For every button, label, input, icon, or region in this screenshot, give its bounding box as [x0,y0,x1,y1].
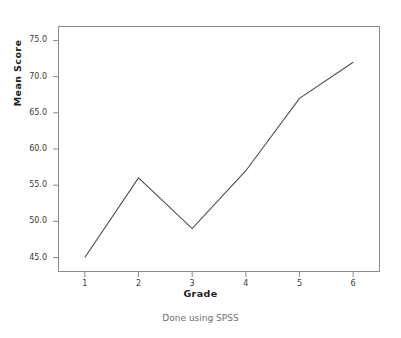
x-tick-label: 3 [180,279,204,288]
y-tick-label: 65.0 [7,108,47,117]
x-axis-tick-marks [85,272,353,277]
y-tick-label: 55.0 [7,180,47,189]
x-tick-label: 4 [234,279,258,288]
x-axis-title: Grade [0,288,401,299]
spss-line-chart-figure: Mean Score 45.050.055.060.065.070.075.0 … [0,0,401,338]
x-tick-label: 5 [288,279,312,288]
figure-caption: Done using SPSS [0,313,401,323]
x-tick-label: 2 [127,279,151,288]
y-tick-label: 45.0 [7,253,47,262]
y-tick-label: 60.0 [7,144,47,153]
mean-score-line [85,62,353,257]
y-tick-label: 50.0 [7,216,47,225]
x-tick-label: 6 [341,279,365,288]
x-tick-label: 1 [73,279,97,288]
y-tick-label: 70.0 [7,72,47,81]
y-tick-label: 75.0 [7,35,47,44]
y-axis-tick-marks [53,40,58,257]
